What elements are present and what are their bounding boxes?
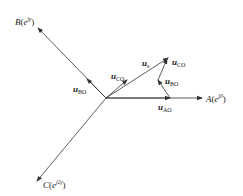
label-u-co-axis: uCO (111, 72, 124, 82)
label-u-s: us (142, 59, 149, 69)
label-u-ao: uAO (158, 103, 172, 113)
label-u-bo-sum: uBO (165, 77, 178, 87)
axis-c (37, 98, 106, 181)
axis-c-label: C(ej2γ) (43, 180, 65, 190)
label-u-co-sum: uCO (172, 58, 185, 68)
space-vector-diagram: B(ejγ) A(ej0) C(ej2γ) uBO uCO us uCO uBO… (0, 0, 243, 196)
axis-b-label: B(ejγ) (15, 17, 34, 27)
vector-u-bo-axis (87, 79, 106, 98)
axis-a-label: A(ej0) (206, 94, 226, 104)
label-u-bo-axis: uBO (73, 85, 86, 95)
vector-u-co-axis (106, 80, 127, 98)
